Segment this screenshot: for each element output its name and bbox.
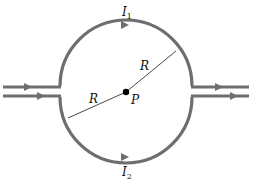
arrow-left-lower-icon xyxy=(37,92,45,100)
current-top-subscript: 1 xyxy=(127,12,132,21)
label-center-point: P xyxy=(131,94,139,106)
radius-line-upper xyxy=(126,51,176,92)
current-arrows xyxy=(24,21,238,161)
upper-semicircle-wire xyxy=(60,20,192,86)
arrow-bottom-arc-icon xyxy=(121,153,129,161)
lower-semicircle-wire xyxy=(60,97,192,163)
label-radius-upper: R xyxy=(140,60,149,72)
label-radius-lower: R xyxy=(89,93,98,105)
arrow-right-lower-icon xyxy=(230,92,238,100)
arrow-right-upper-icon xyxy=(215,83,223,91)
current-bottom-subscript: 2 xyxy=(127,172,132,181)
label-current-bottom: I2 xyxy=(122,166,132,183)
diagram-canvas: I1 I2 R R P xyxy=(0,0,253,191)
arrow-left-upper-icon xyxy=(24,83,32,91)
center-point-dot xyxy=(123,89,129,95)
circuit-diagram xyxy=(0,0,253,191)
label-current-top: I1 xyxy=(122,6,132,23)
